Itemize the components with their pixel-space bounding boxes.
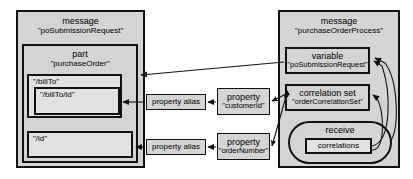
field-billto-label: "/billTo" <box>29 76 59 87</box>
property-box-ordernumber: property "orderNumber" <box>217 133 270 160</box>
correlations-box: correlations <box>305 138 372 154</box>
correlation-set-box: correlation set "orderCorrelationSet" <box>285 84 370 111</box>
left-message-name: "poSubmissionRequest" <box>38 27 124 36</box>
field-id-box: "/id" <box>27 131 133 158</box>
part-name: "purchaseOrder" <box>50 60 109 69</box>
property-name-customerid: "customerId" <box>222 102 264 110</box>
property-name-ordernumber: "orderNumber" <box>219 147 269 155</box>
property-alias-box-1: property alias <box>146 94 206 110</box>
property-alias-label-2: property alias <box>152 143 200 152</box>
property-alias-label-1: property alias <box>152 98 200 107</box>
arrow-variable-to-part <box>141 62 284 75</box>
variable-box: variable "poSubmissionRequest" <box>285 47 370 74</box>
receive-kind: receive <box>325 126 354 136</box>
field-billto-id-box: "/billTo/id" <box>34 87 120 115</box>
correlation-set-name: "orderCorrelationSet" <box>292 98 363 106</box>
correlations-label: correlations <box>318 142 359 151</box>
field-billto-id-label: "/billTo/id" <box>36 89 75 100</box>
property-box-customerid: property "customerId" <box>217 88 270 115</box>
diagram-canvas: message "poSubmissionRequest" part "purc… <box>0 0 413 179</box>
field-id-label: "/id" <box>29 133 47 144</box>
right-message-name: "purchaseOrderProcess" <box>295 27 383 36</box>
variable-name: "poSubmissionRequest" <box>287 61 367 69</box>
property-alias-box-2: property alias <box>146 139 206 155</box>
